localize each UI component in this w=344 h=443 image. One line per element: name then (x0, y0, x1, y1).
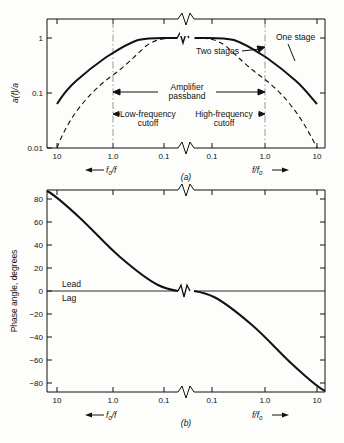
panel-b-ytick-label-7: −60 (29, 356, 43, 365)
figure-bode-response: 1 0.1 0.01 10 1.0 0.1 0.1 1.0 10 a(f)/a (0, 0, 344, 443)
panel-b-label: (b) (181, 418, 192, 428)
panel-b-xtick-label-5: 10 (313, 396, 322, 405)
panel-b-ytick-label-3: 20 (34, 264, 43, 273)
panel-b-xtick-label-0: 10 (53, 396, 62, 405)
panel-b-ytick-label-5: −20 (29, 310, 43, 319)
panel-b-region-label-lead: Lead (62, 279, 81, 289)
panel-a-xtick-label-0: 10 (53, 152, 62, 161)
panel-b-xtick-label-1: 1.0 (107, 396, 119, 405)
panel-a-xtick-label-5: 10 (313, 152, 322, 161)
panel-a-xtick-label-2: 0.1 (158, 152, 170, 161)
panel-b-xtick-label-2: 0.1 (158, 396, 170, 405)
panel-b-y-axis-label: Phase angle, degrees (9, 250, 19, 333)
annotation-one-stage-label: One stage (276, 32, 315, 42)
panel-a-y-axis-label: a(f)/a (10, 83, 20, 103)
panel-b-ytick-label-4: 0 (39, 287, 44, 296)
panel-a-ytick-label-1: 0.1 (32, 89, 44, 98)
panel-a-ytick-label-2: 0.01 (27, 144, 43, 153)
panel-b-ytick-label-0: 80 (34, 195, 43, 204)
panel-b-xtick-label-4: 1.0 (259, 396, 271, 405)
figure-svg: 1 0.1 0.01 10 1.0 0.1 0.1 1.0 10 a(f)/a (0, 0, 344, 443)
panel-a-break-mask (180, 31, 188, 36)
panel-a-xtick-label-1: 1.0 (107, 152, 119, 161)
panel-b-ytick-label-1: 60 (34, 218, 43, 227)
panel-b-region-label-lag: Lag (62, 293, 76, 303)
panel-b-ytick-label-6: −40 (29, 333, 43, 342)
panel-b-ytick-label-2: 40 (34, 241, 43, 250)
panel-b-xtick-label-3: 0.1 (206, 396, 218, 405)
panel-a-xtick-label-3: 0.1 (206, 152, 218, 161)
svg-text:f0/f: f0/f (106, 410, 118, 421)
panel-a-xtick-label-4: 1.0 (259, 152, 271, 161)
panel-a-label: (a) (181, 172, 192, 182)
panel-b-ytick-label-8: −80 (29, 379, 43, 388)
svg-text:f0/f: f0/f (106, 165, 118, 176)
annotation-low-cutoff-line2: cutoff (138, 118, 159, 128)
panel-a-ytick-label-0: 1 (39, 34, 44, 43)
annotation-two-stages-label: Two stages (196, 46, 239, 56)
annotation-high-cutoff-line2: cutoff (214, 118, 235, 128)
annotation-passband-line2: passband (169, 91, 206, 101)
